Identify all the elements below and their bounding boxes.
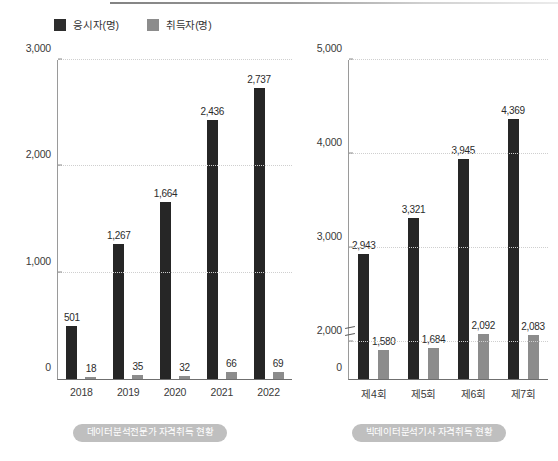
bar-value-label: 501 [64, 312, 80, 323]
chart-caption-left: 데이터분석전문가 자격취득 현황 [73, 424, 227, 442]
y-axis-tick-label: 0 [45, 361, 51, 373]
legend-item-applicants: 응시자(명) [54, 17, 119, 32]
gridline [349, 59, 548, 60]
y-axis-tick-label: 4,000 [317, 136, 342, 148]
x-axis-tick-label: 2020 [164, 386, 187, 398]
bar-value-label: 3,945 [452, 145, 476, 156]
bar-certified: 1,684 [428, 348, 439, 379]
bar-applicants: 4,369 [508, 119, 519, 379]
bar-group: 4,3692,083제7회 [498, 60, 548, 379]
chart-board: 응시자(명) 취득자(명) 5011820181,2673520191,6643… [0, 0, 558, 461]
bar-group: 1,267352019 [105, 60, 152, 379]
y-axis-tick-mark [349, 153, 353, 154]
bar-value-label: 66 [226, 358, 237, 369]
y-axis-tick-mark [58, 271, 62, 272]
bar-value-label: 4,369 [501, 105, 525, 116]
y-axis-tick-mark [58, 59, 62, 60]
legend-label-applicants: 응시자(명) [73, 17, 119, 32]
y-axis-break-icon [345, 327, 355, 338]
bar-applicants: 1,267 [113, 244, 124, 379]
bar-certified: 1,580 [378, 350, 389, 379]
bar-groups-right: 2,9431,580제4회3,3211,684제5회3,9452,092제6회4… [349, 60, 548, 379]
legend-label-certified: 취득자(명) [166, 17, 212, 32]
caption-row-right: 빅데이터분석기사 자격취득 현황 [300, 424, 558, 442]
y-axis-tick-label: 2,000 [317, 324, 342, 336]
x-axis-tick-label: 제7회 [511, 386, 536, 401]
bar-groups-left: 5011820181,2673520191,6643220202,4366620… [58, 60, 292, 379]
y-axis-tick-label: 3,000 [317, 230, 342, 242]
bar-value-label: 2,436 [201, 106, 225, 117]
bar-value-label: 32 [179, 362, 190, 373]
x-axis-tick-label: 2018 [70, 386, 93, 398]
chart-panel-right: 2,9431,580제4회3,3211,684제5회3,9452,092제6회4… [300, 40, 558, 420]
bar-value-label: 2,092 [472, 320, 496, 331]
bar-value-label: 2,083 [521, 321, 545, 332]
y-axis-tick-mark [349, 341, 353, 342]
square-swatch-gray-icon [147, 19, 159, 31]
plot-area-left: 5011820181,2673520191,6643220202,4366620… [57, 60, 292, 380]
bar-applicants: 3,945 [458, 159, 469, 379]
gridline [349, 341, 548, 342]
bar-value-label: 2,943 [352, 240, 376, 251]
y-axis-tick-label: 5,000 [317, 42, 342, 54]
x-axis-tick-label: 제6회 [461, 386, 486, 401]
caption-row-left: 데이터분석전문가 자격취득 현황 [0, 424, 300, 442]
gridline [349, 247, 548, 248]
y-axis-tick-mark [58, 165, 62, 166]
square-swatch-dark-icon [54, 19, 66, 31]
bar-group: 3,9452,092제6회 [449, 60, 499, 379]
bar-certified: 69 [273, 372, 284, 379]
x-axis-tick-label: 2022 [257, 386, 280, 398]
gridline [58, 59, 292, 60]
bar-group: 2,436662021 [198, 60, 245, 379]
x-axis-tick-label: 제5회 [411, 386, 436, 401]
bar-applicants: 1,664 [160, 202, 171, 379]
y-axis-tick-label: 2,000 [26, 148, 51, 160]
gridline [58, 272, 292, 273]
bar-applicants: 2,737 [254, 88, 265, 379]
x-axis-tick-label: 2019 [117, 386, 140, 398]
x-axis-tick-label: 제4회 [361, 386, 386, 401]
bar-group: 3,3211,684제5회 [399, 60, 449, 379]
bar-certified: 35 [132, 375, 143, 379]
bar-certified: 66 [226, 372, 237, 379]
y-axis-tick-mark [349, 247, 353, 248]
x-axis-tick-label: 2021 [211, 386, 234, 398]
bar-applicants: 2,436 [207, 120, 218, 379]
bar-value-label: 2,737 [247, 74, 271, 85]
y-axis-tick-label: 1,000 [26, 255, 51, 267]
chart-panel-left: 5011820181,2673520191,6643220202,4366620… [0, 40, 300, 420]
bar-certified: 18 [85, 377, 96, 379]
page-edge-artifact [110, 2, 558, 4]
chart-caption-right: 빅데이터분석기사 자격취득 현황 [352, 424, 506, 442]
legend-item-certified: 취득자(명) [147, 17, 212, 32]
bar-value-label: 1,684 [422, 334, 446, 345]
bar-value-label: 1,267 [107, 230, 131, 241]
bar-applicants: 2,943 [358, 254, 369, 379]
bar-certified: 32 [179, 376, 190, 379]
y-axis-tick-mark [349, 59, 353, 60]
bar-group: 2,737692022 [245, 60, 292, 379]
bar-group: 1,664322020 [152, 60, 199, 379]
y-axis-tick-label: 3,000 [26, 42, 51, 54]
plot-area-right: 2,9431,580제4회3,3211,684제5회3,9452,092제6회4… [348, 60, 548, 380]
y-axis-tick-label: 0 [336, 361, 342, 373]
bar-applicants: 3,321 [408, 218, 419, 379]
bar-group: 2,9431,580제4회 [349, 60, 399, 379]
bar-group: 501182018 [58, 60, 105, 379]
bar-value-label: 35 [132, 361, 143, 372]
gridline [58, 165, 292, 166]
bar-value-label: 1,664 [154, 188, 178, 199]
chart-legend: 응시자(명) 취득자(명) [54, 17, 212, 32]
gridline [349, 153, 548, 154]
bar-value-label: 69 [273, 358, 284, 369]
bar-value-label: 18 [86, 363, 97, 374]
bar-value-label: 3,321 [402, 204, 426, 215]
bar-applicants: 501 [66, 326, 77, 379]
